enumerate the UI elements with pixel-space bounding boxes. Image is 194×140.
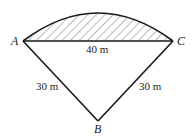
segment-diagram: A C B 40 m 30 m 30 m: [0, 0, 194, 140]
vertex-a-label: A: [10, 34, 19, 48]
edge-ab-label: 30 m: [36, 80, 59, 92]
edge-bc: [98, 41, 173, 121]
edge-ac-label: 40 m: [86, 43, 109, 55]
vertex-c-label: C: [177, 34, 186, 48]
edge-bc-label: 30 m: [139, 80, 162, 92]
vertex-b-label: B: [94, 122, 102, 136]
